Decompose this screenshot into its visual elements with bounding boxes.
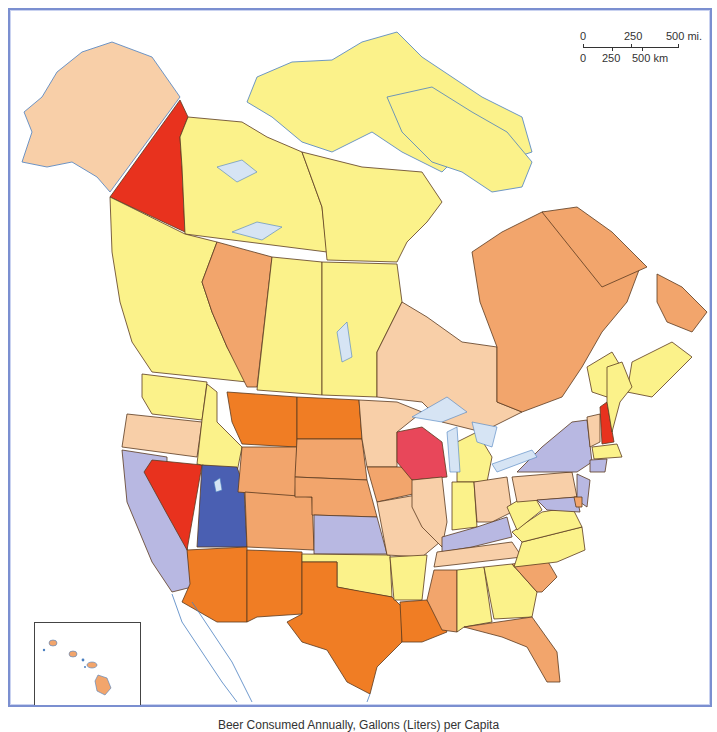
region-connecticut[interactable]	[590, 459, 607, 472]
lake-michigan	[447, 427, 460, 472]
scale-mi-500: 500 mi.	[666, 30, 702, 42]
region-maine[interactable]	[607, 362, 632, 432]
choropleth-map	[10, 10, 710, 705]
region-washington[interactable]	[142, 374, 207, 420]
region-ohio[interactable]	[474, 477, 512, 522]
region-montana[interactable]	[227, 392, 297, 447]
map-frame: 0 250 500 mi. 0 250 500 km	[8, 8, 712, 707]
island-lanai	[84, 666, 86, 668]
scale-mi-250: 250	[624, 30, 642, 42]
region-oregon[interactable]	[122, 414, 202, 457]
hawaii-inset	[34, 622, 141, 707]
region-newfoundland[interactable]	[657, 274, 707, 332]
region-hawaii-kauai[interactable]	[49, 640, 57, 646]
region-hawaii-oahu[interactable]	[69, 651, 77, 657]
scale-km-500: 500 km	[632, 52, 668, 64]
scale-bar: 0 250 500 mi. 0 250 500 km	[580, 30, 710, 70]
region-indiana[interactable]	[452, 482, 477, 530]
region-north-dakota[interactable]	[297, 397, 362, 439]
scale-tick	[678, 44, 679, 48]
region-arkansas[interactable]	[390, 555, 427, 600]
region-arizona[interactable]	[182, 547, 247, 622]
scale-km-250: 250	[602, 52, 620, 64]
scale-tick	[642, 47, 643, 51]
region-colorado[interactable]	[245, 492, 314, 550]
region-hawaii-big-island[interactable]	[95, 675, 111, 695]
hawaii-map	[35, 623, 140, 707]
region-maryland[interactable]	[537, 497, 580, 512]
region-massachusetts[interactable]	[592, 444, 622, 459]
map-caption: Beer Consumed Annually, Gallons (Liters)…	[0, 718, 717, 732]
region-hawaii-maui[interactable]	[87, 662, 97, 668]
region-nova-scotia[interactable]	[627, 342, 692, 397]
scale-mi-0: 0	[580, 30, 586, 42]
region-florida[interactable]	[464, 617, 560, 682]
scale-tick	[583, 44, 584, 48]
coastline-gulf	[367, 694, 370, 702]
region-kansas[interactable]	[314, 515, 387, 554]
scale-km-0: 0	[580, 52, 586, 64]
region-wyoming[interactable]	[238, 447, 297, 497]
island-niihau	[43, 649, 45, 651]
region-new-mexico[interactable]	[247, 550, 302, 622]
island-molokai	[82, 659, 85, 662]
scale-tick	[612, 47, 613, 51]
scale-tick	[631, 44, 632, 48]
region-new-york[interactable]	[517, 420, 592, 472]
region-south-dakota[interactable]	[295, 439, 367, 480]
